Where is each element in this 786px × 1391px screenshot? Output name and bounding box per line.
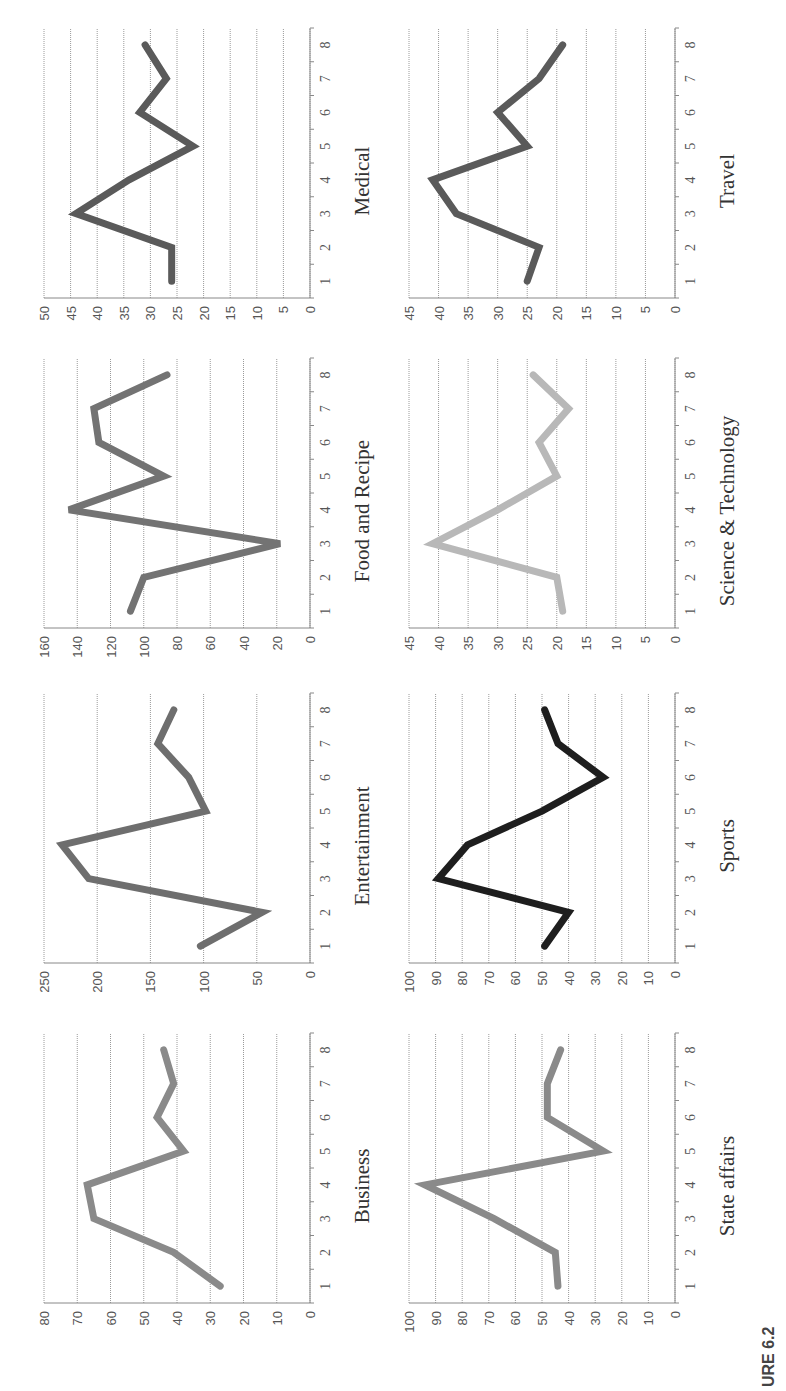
svg-text:5: 5 [318, 143, 333, 150]
chart-title: Business [350, 1021, 375, 1351]
svg-text:50: 50 [37, 306, 52, 320]
svg-text:45: 45 [402, 636, 417, 650]
svg-text:50: 50 [535, 1311, 550, 1325]
line-chart: 05101520253035404512345678 [395, 16, 715, 346]
svg-text:40: 40 [237, 636, 252, 650]
svg-text:3: 3 [683, 875, 698, 882]
svg-text:70: 70 [70, 1311, 85, 1325]
rotated-figure: 0102030405060708012345678 Business 05010… [0, 0, 786, 1391]
line-chart: 010203040506070809010012345678 [395, 1021, 715, 1351]
svg-text:10: 10 [250, 306, 265, 320]
chart-title: Travel [715, 16, 740, 346]
svg-text:7: 7 [683, 405, 698, 412]
svg-text:8: 8 [683, 371, 698, 378]
svg-text:0: 0 [303, 636, 318, 643]
svg-text:40: 40 [432, 306, 447, 320]
chart-title: State affairs [715, 1021, 740, 1351]
chart-state-affairs: 010203040506070809010012345678 State aff… [395, 1021, 755, 1351]
svg-text:8: 8 [318, 371, 333, 378]
svg-text:6: 6 [683, 439, 698, 446]
svg-text:45: 45 [64, 306, 79, 320]
svg-text:4: 4 [683, 841, 698, 848]
chart-food-and-recipe: 02040608010012014016012345678 Food and R… [30, 346, 390, 676]
svg-text:6: 6 [683, 774, 698, 781]
chart-title: Entertainment [350, 681, 375, 1011]
chart-business: 0102030405060708012345678 Business [30, 1021, 390, 1351]
svg-text:6: 6 [318, 439, 333, 446]
svg-text:90: 90 [429, 971, 444, 985]
svg-text:7: 7 [683, 740, 698, 747]
line-chart: 0102030405060708012345678 [30, 1021, 350, 1351]
svg-text:2: 2 [318, 574, 333, 581]
svg-text:140: 140 [70, 636, 85, 658]
svg-text:1: 1 [683, 1283, 698, 1290]
svg-text:20: 20 [615, 1311, 630, 1325]
svg-text:5: 5 [683, 473, 698, 480]
svg-text:25: 25 [170, 306, 185, 320]
chart-travel: 05101520253035404512345678 Travel [395, 16, 755, 346]
svg-text:20: 20 [550, 636, 565, 650]
svg-text:1: 1 [318, 608, 333, 615]
svg-text:4: 4 [683, 506, 698, 513]
svg-text:60: 60 [104, 1311, 119, 1325]
svg-text:30: 30 [491, 636, 506, 650]
svg-text:1: 1 [683, 278, 698, 285]
svg-text:50: 50 [250, 971, 265, 985]
svg-text:4: 4 [318, 506, 333, 513]
svg-text:7: 7 [683, 1080, 698, 1087]
svg-text:0: 0 [668, 1311, 683, 1318]
svg-text:2: 2 [683, 244, 698, 251]
svg-text:40: 40 [170, 1311, 185, 1325]
svg-text:2: 2 [683, 1249, 698, 1256]
svg-text:60: 60 [203, 636, 218, 650]
svg-text:7: 7 [318, 1080, 333, 1087]
chart-title: Food and Recipe [350, 346, 375, 676]
svg-text:200: 200 [90, 971, 105, 993]
svg-text:160: 160 [37, 636, 52, 658]
svg-text:20: 20 [237, 1311, 252, 1325]
svg-text:1: 1 [318, 278, 333, 285]
svg-text:7: 7 [318, 405, 333, 412]
svg-text:10: 10 [609, 636, 624, 650]
svg-text:1: 1 [683, 608, 698, 615]
svg-text:0: 0 [668, 636, 683, 643]
svg-text:40: 40 [90, 306, 105, 320]
svg-text:5: 5 [638, 306, 653, 313]
svg-text:250: 250 [37, 971, 52, 993]
svg-text:3: 3 [318, 210, 333, 217]
svg-text:7: 7 [318, 740, 333, 747]
chart-title: Medical [350, 16, 375, 346]
chart-title: Sports [715, 681, 740, 1011]
svg-text:2: 2 [683, 909, 698, 916]
svg-text:8: 8 [318, 41, 333, 48]
svg-text:7: 7 [318, 75, 333, 82]
svg-text:4: 4 [683, 176, 698, 183]
svg-text:25: 25 [520, 636, 535, 650]
svg-text:1: 1 [318, 1283, 333, 1290]
svg-text:4: 4 [318, 841, 333, 848]
svg-text:100: 100 [402, 971, 417, 993]
svg-text:8: 8 [318, 706, 333, 713]
svg-text:35: 35 [461, 306, 476, 320]
svg-text:40: 40 [432, 636, 447, 650]
svg-text:4: 4 [318, 176, 333, 183]
svg-text:40: 40 [562, 1311, 577, 1325]
svg-text:3: 3 [318, 875, 333, 882]
svg-text:100: 100 [137, 636, 152, 658]
chart-sports: 010203040506070809010012345678 Sports [395, 681, 755, 1011]
svg-text:50: 50 [535, 971, 550, 985]
svg-text:30: 30 [588, 971, 603, 985]
svg-text:0: 0 [303, 971, 318, 978]
svg-text:120: 120 [104, 636, 119, 658]
svg-text:5: 5 [638, 636, 653, 643]
svg-text:5: 5 [318, 808, 333, 815]
svg-text:60: 60 [508, 1311, 523, 1325]
line-chart: 010203040506070809010012345678 [395, 681, 715, 1011]
svg-text:15: 15 [579, 636, 594, 650]
svg-text:80: 80 [455, 971, 470, 985]
svg-text:10: 10 [641, 971, 656, 985]
svg-text:3: 3 [683, 210, 698, 217]
svg-text:0: 0 [668, 306, 683, 313]
svg-text:30: 30 [143, 306, 158, 320]
svg-text:50: 50 [137, 1311, 152, 1325]
